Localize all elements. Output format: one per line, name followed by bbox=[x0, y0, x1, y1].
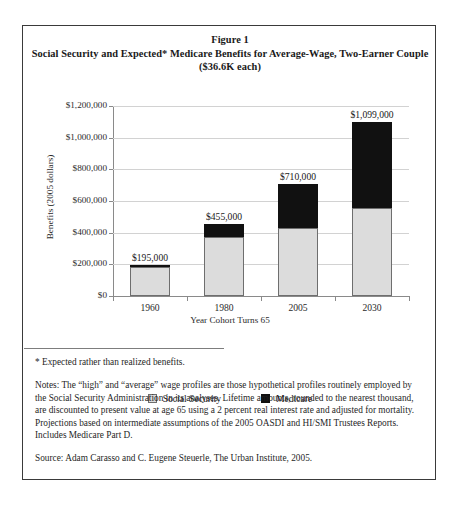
figure-page: Figure 1 Social Security and Expected* M… bbox=[0, 0, 461, 505]
bar-segment-social-security[interactable] bbox=[204, 237, 244, 296]
y-tick-label: $200,000 bbox=[17, 258, 107, 268]
figure-notes: * Expected rather than realized benefits… bbox=[35, 356, 425, 465]
figure-title-block: Figure 1 Social Security and Expected* M… bbox=[23, 33, 437, 74]
x-axis-title: Year Cohort Turns 65 bbox=[23, 315, 437, 325]
x-tick-mark bbox=[261, 296, 262, 301]
bar-segment-medicare[interactable] bbox=[352, 122, 392, 208]
x-tick-mark bbox=[335, 296, 336, 301]
y-tick-mark bbox=[109, 138, 113, 139]
bar-group[interactable]: $710,000 bbox=[278, 184, 318, 296]
y-tick-label: $1,000,000 bbox=[17, 132, 107, 142]
y-tick-label: $600,000 bbox=[17, 195, 107, 205]
bar-segment-social-security[interactable] bbox=[130, 267, 170, 296]
x-tick-mark bbox=[113, 296, 114, 301]
bar-segment-social-security[interactable] bbox=[278, 228, 318, 296]
y-tick-mark bbox=[109, 264, 113, 265]
figure-title-line-2: ($36.6K each) bbox=[23, 60, 437, 74]
bar-group[interactable]: $455,000 bbox=[204, 224, 244, 296]
x-tick-label: 2030 bbox=[332, 302, 412, 313]
x-tick-label: 1960 bbox=[110, 302, 190, 313]
figure-container: Figure 1 Social Security and Expected* M… bbox=[22, 25, 436, 480]
y-tick-mark bbox=[109, 233, 113, 234]
gridline bbox=[113, 106, 409, 107]
x-tick-label: 1980 bbox=[184, 302, 264, 313]
y-tick-label: $400,000 bbox=[17, 227, 107, 237]
y-tick-mark bbox=[109, 201, 113, 202]
bar-segment-medicare[interactable] bbox=[130, 265, 170, 267]
bar-segment-medicare[interactable] bbox=[204, 224, 244, 237]
x-tick-mark bbox=[187, 296, 188, 301]
notes-divider bbox=[24, 348, 224, 349]
note-source: Source: Adam Carasso and C. Eugene Steue… bbox=[35, 452, 425, 464]
chart-area: Benefits (2005 dollars) $0$200,000$400,0… bbox=[23, 88, 437, 344]
y-tick-mark bbox=[109, 106, 113, 107]
plot-area: $0$200,000$400,000$600,000$800,000$1,000… bbox=[113, 106, 409, 296]
bar-segment-medicare[interactable] bbox=[278, 184, 318, 228]
bar-group[interactable]: $195,000 bbox=[130, 265, 170, 296]
y-tick-mark bbox=[109, 169, 113, 170]
note-body: Notes: The “high” and “average” wage pro… bbox=[35, 379, 425, 441]
x-tick-mark bbox=[409, 296, 410, 301]
y-tick-label: $800,000 bbox=[17, 163, 107, 173]
bar-value-label: $195,000 bbox=[95, 252, 205, 263]
bar-segment-social-security[interactable] bbox=[352, 208, 392, 296]
bar-value-label: $1,099,000 bbox=[317, 109, 427, 120]
figure-number: Figure 1 bbox=[23, 33, 437, 47]
x-tick-label: 2005 bbox=[258, 302, 338, 313]
figure-title-line-1: Social Security and Expected* Medicare B… bbox=[23, 47, 437, 61]
note-asterisk: * Expected rather than realized benefits… bbox=[35, 356, 425, 368]
bar-group[interactable]: $1,099,000 bbox=[352, 122, 392, 296]
y-tick-label: $1,200,000 bbox=[17, 100, 107, 110]
bar-value-label: $455,000 bbox=[169, 211, 279, 222]
bar-value-label: $710,000 bbox=[243, 171, 353, 182]
y-tick-label: $0 bbox=[17, 290, 107, 300]
